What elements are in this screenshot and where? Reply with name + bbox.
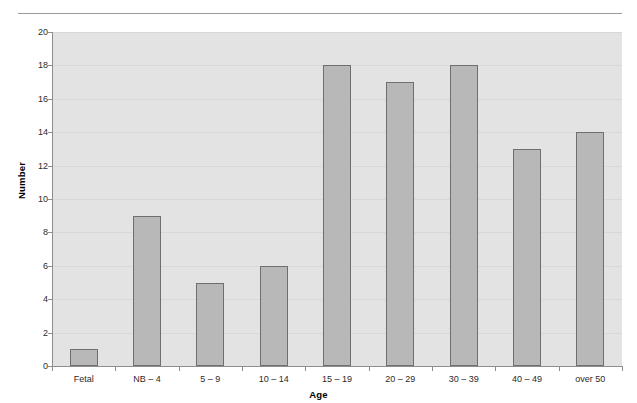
bar xyxy=(70,349,98,366)
x-tick-mark xyxy=(242,367,243,371)
x-tick-mark xyxy=(305,367,306,371)
x-tick-mark xyxy=(495,367,496,371)
bar xyxy=(576,132,604,366)
bar xyxy=(386,82,414,366)
y-tick-label: 0 xyxy=(4,362,48,371)
x-tick-label: over 50 xyxy=(559,374,622,384)
x-tick-mark xyxy=(115,367,116,371)
y-tick-label: 6 xyxy=(4,262,48,271)
x-tick-mark xyxy=(369,367,370,371)
bar xyxy=(133,216,161,366)
x-tick-label: 30 – 39 xyxy=(432,374,495,384)
x-tick-mark xyxy=(179,367,180,371)
bar-series xyxy=(52,32,622,366)
bar xyxy=(513,149,541,366)
x-axis-title: Age xyxy=(0,389,637,400)
y-tick-label: 14 xyxy=(4,128,48,137)
bar-chart: 02468101214161820 Number FetalNB – 45 – … xyxy=(0,0,637,403)
x-tick-label: 20 – 29 xyxy=(369,374,432,384)
y-tick-label: 18 xyxy=(4,61,48,70)
bar xyxy=(450,65,478,366)
x-tick-label: 40 – 49 xyxy=(495,374,558,384)
x-tick-mark xyxy=(432,367,433,371)
x-tick-mark xyxy=(559,367,560,371)
y-tick-label: 4 xyxy=(4,295,48,304)
x-tick-mark xyxy=(52,367,53,371)
x-axis-tickmarks xyxy=(52,367,623,372)
x-tick-label: Fetal xyxy=(52,374,115,384)
bar xyxy=(196,283,224,367)
y-axis-title: Number xyxy=(16,151,27,211)
x-tick-label: 10 – 14 xyxy=(242,374,305,384)
y-tick-label: 8 xyxy=(4,228,48,237)
bar xyxy=(323,65,351,366)
x-tick-label: 5 – 9 xyxy=(179,374,242,384)
x-tick-mark xyxy=(622,367,623,371)
y-tick-label: 20 xyxy=(4,28,48,37)
x-tick-label: 15 – 19 xyxy=(305,374,368,384)
bar xyxy=(260,266,288,366)
y-tick-label: 2 xyxy=(4,329,48,338)
x-axis-tick-labels: FetalNB – 45 – 910 – 1415 – 1920 – 2930 … xyxy=(52,374,622,388)
y-tick-label: 16 xyxy=(4,95,48,104)
x-tick-label: NB – 4 xyxy=(115,374,178,384)
